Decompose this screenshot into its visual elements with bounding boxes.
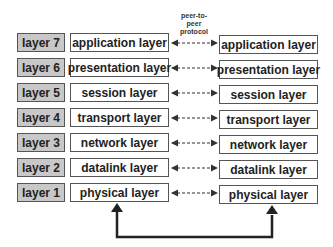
connections: [0, 0, 333, 247]
physical-link-arrow-icon: [111, 203, 278, 237]
peer-arrows: [172, 43, 217, 193]
